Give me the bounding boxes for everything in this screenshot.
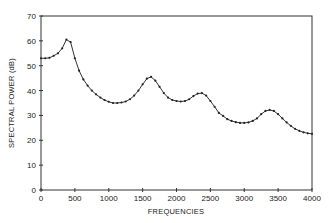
data-point-marker	[180, 100, 182, 102]
data-point-marker	[53, 55, 55, 57]
plot-border	[41, 16, 312, 190]
x-axis-title: FREQUENCIES	[148, 207, 204, 216]
data-point-marker	[256, 117, 258, 119]
data-point-marker	[65, 39, 67, 41]
data-point-marker	[99, 96, 101, 98]
data-point-marker	[40, 57, 42, 59]
data-point-marker	[188, 98, 190, 100]
data-point-marker	[125, 100, 127, 102]
data-point-marker	[82, 78, 84, 80]
y-tick-label: 50	[27, 62, 36, 71]
data-point-marker	[142, 83, 144, 85]
y-tick-label: 20	[27, 136, 36, 145]
data-point-marker	[103, 99, 105, 101]
data-point-marker	[158, 86, 160, 88]
x-tick-label: 2000	[168, 194, 186, 203]
x-tick-label: 3500	[269, 194, 287, 203]
y-tick-label: 60	[27, 37, 36, 46]
data-point-marker	[277, 113, 279, 115]
data-point-marker	[239, 122, 241, 124]
data-point-marker	[294, 128, 296, 130]
data-point-marker	[74, 57, 76, 59]
data-point-marker	[61, 47, 63, 49]
data-point-marker	[281, 117, 283, 119]
data-point-marker	[171, 99, 173, 101]
data-point-marker	[91, 89, 93, 91]
data-point-marker	[150, 76, 152, 78]
data-point-marker	[264, 110, 266, 112]
x-tick-label: 1000	[100, 194, 118, 203]
data-point-marker	[95, 93, 97, 95]
data-point-marker	[226, 118, 228, 120]
data-point-marker	[44, 57, 46, 59]
data-point-marker	[235, 121, 237, 123]
data-point-marker	[260, 113, 262, 115]
data-point-marker	[222, 115, 224, 117]
data-point-marker	[129, 98, 131, 100]
data-point-marker	[205, 94, 207, 96]
data-point-marker	[298, 130, 300, 132]
plot-frame	[41, 16, 312, 190]
spectral-power-chart: 010203040506070 050010001500200025003000…	[0, 0, 329, 223]
data-point-marker	[307, 132, 309, 134]
x-tick-label: 2500	[201, 194, 219, 203]
y-tick-label: 40	[27, 87, 36, 96]
data-point-marker	[252, 120, 254, 122]
data-point-marker	[112, 102, 114, 104]
data-point-marker	[133, 94, 135, 96]
data-point-marker	[230, 120, 232, 122]
data-point-marker	[302, 131, 304, 133]
data-point-marker	[146, 78, 148, 80]
y-axis-title: SPECTRAL POWER (dB)	[7, 58, 16, 148]
series-line	[41, 40, 312, 134]
data-point-marker	[311, 133, 313, 135]
x-tick-label: 0	[39, 194, 44, 203]
data-point-marker	[137, 89, 139, 91]
data-point-marker	[167, 96, 169, 98]
data-point-marker	[243, 122, 245, 124]
data-point-marker	[175, 100, 177, 102]
x-tick-label: 3000	[235, 194, 253, 203]
data-point-marker	[78, 70, 80, 72]
data-point-marker	[86, 85, 88, 87]
data-point-marker	[201, 92, 203, 94]
data-point-marker	[57, 52, 59, 54]
y-tick-label: 30	[27, 111, 36, 120]
data-point-marker	[108, 101, 110, 103]
data-point-marker	[116, 102, 118, 104]
x-tick-label: 500	[68, 194, 82, 203]
data-point-marker	[48, 57, 50, 59]
data-point-marker	[290, 125, 292, 127]
data-point-marker	[247, 121, 249, 123]
data-point-marker	[214, 106, 216, 108]
data-point-marker	[209, 100, 211, 102]
data-point-marker	[192, 95, 194, 97]
data-point-marker	[285, 121, 287, 123]
data-point-marker	[154, 80, 156, 82]
y-tick-label: 10	[27, 161, 36, 170]
data-point-marker	[218, 112, 220, 114]
data-point-marker	[269, 109, 271, 111]
y-tick-label: 0	[32, 186, 37, 195]
x-tick-label: 4000	[303, 194, 321, 203]
x-tick-label: 1500	[134, 194, 152, 203]
data-point-marker	[273, 110, 275, 112]
data-series	[40, 39, 313, 135]
data-point-marker	[184, 100, 186, 102]
y-tick-label: 70	[27, 12, 36, 21]
data-point-marker	[163, 92, 165, 94]
data-point-marker	[120, 101, 122, 103]
data-point-marker	[197, 92, 199, 94]
data-point-marker	[70, 41, 72, 43]
